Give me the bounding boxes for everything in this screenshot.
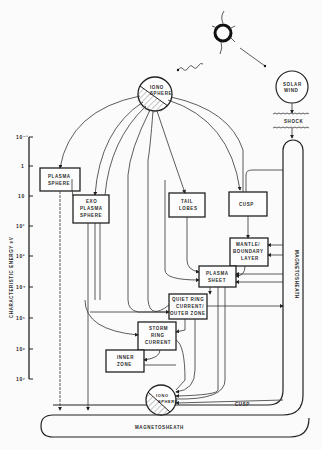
svg-text:SPHERE: SPHERE	[80, 213, 102, 218]
svg-text:TAIL: TAIL	[181, 199, 193, 204]
axis-label: CHARACTERISTIC ENERGY eV	[9, 237, 14, 318]
svg-text:EXO: EXO	[86, 199, 97, 204]
tail-lobes-node: TAIL LOBES	[169, 193, 205, 217]
mantle-boundary-layer-node: MANTLE/ BOUNDARY LAYER	[230, 238, 268, 266]
svg-text:IONO: IONO	[156, 393, 169, 398]
svg-text:LAYER: LAYER	[241, 256, 259, 261]
energy-axis: 10⁻¹ 1 10 10² 10³ 10⁴ 10⁵ 10⁶ 10⁷ CHARAC…	[9, 134, 33, 382]
svg-text:BOUNDARY: BOUNDARY	[233, 249, 264, 254]
svg-text:SPHERE: SPHERE	[158, 399, 178, 404]
plasmasphere-node: PLASMA SPHERE	[40, 168, 80, 191]
cusp-path-label: CUSP	[235, 402, 250, 407]
tick-label: 10⁴	[16, 284, 26, 290]
svg-text:MANTLE/: MANTLE/	[236, 242, 260, 247]
tick-label: 10⁵	[16, 315, 26, 321]
solar-wind-node: SOLAR WIND	[276, 71, 308, 103]
svg-text:CURRENT: CURRENT	[145, 340, 171, 345]
magnetosheath-channel: MAGNETOSHEATH MAGNETOSHEATH	[41, 140, 309, 437]
shock-node: SHOCK	[273, 113, 309, 128]
cusp-node: CUSP	[229, 192, 267, 216]
tick-label: 10⁻¹	[16, 134, 29, 140]
svg-text:SHOCK: SHOCK	[284, 119, 303, 124]
quiet-ring-current-node: QUIET RING CURRENT/ OUTER ZONE	[169, 294, 207, 319]
svg-text:CUSP: CUSP	[239, 202, 254, 207]
plasma-sheet-node: PLASMA SHEET	[199, 266, 236, 287]
storm-ring-current-node: STORM RING CURRENT	[138, 322, 176, 350]
svg-text:SPHERE: SPHERE	[48, 181, 70, 186]
magnetosphere-diagram: 10⁻¹ 1 10 10² 10³ 10⁴ 10⁵ 10⁶ 10⁷ CHARAC…	[0, 0, 322, 450]
svg-text:LOBES: LOBES	[179, 206, 198, 211]
svg-text:PLASMA: PLASMA	[206, 271, 229, 276]
exo-plasmasphere-node: EXO PLASMA SPHERE	[73, 195, 109, 223]
tick-label: 10	[18, 193, 25, 199]
tick-label: 10⁷	[16, 376, 25, 382]
svg-text:INNER: INNER	[117, 355, 134, 360]
sun-icon	[177, 11, 266, 71]
svg-text:SPHERE: SPHERE	[150, 91, 172, 96]
tick-label: 10²	[16, 223, 25, 229]
svg-text:SOLAR: SOLAR	[283, 82, 302, 87]
svg-text:ZONE: ZONE	[117, 362, 132, 367]
tick-label: 10³	[16, 253, 25, 259]
svg-text:STORM: STORM	[149, 326, 168, 331]
ionosphere-top-node: IONO SPHERE	[137, 77, 172, 113]
magnetosheath-vertical-label: MAGNETOSHEATH	[294, 250, 299, 299]
svg-text:PLASMA: PLASMA	[80, 206, 103, 211]
svg-text:IONO: IONO	[150, 85, 164, 90]
svg-text:SHEET: SHEET	[208, 278, 226, 283]
magnetosheath-bottom-label: MAGNETOSHEATH	[135, 425, 184, 430]
ionosphere-bottom-node: IONO SPHERE	[145, 385, 178, 416]
svg-text:OUTER ZONE: OUTER ZONE	[170, 311, 206, 316]
svg-text:RING: RING	[151, 333, 165, 338]
svg-text:CURRENT/: CURRENT/	[176, 304, 204, 309]
inner-zone-node: INNER ZONE	[106, 350, 144, 372]
tick-label: 1	[21, 163, 24, 169]
svg-text:WIND: WIND	[284, 88, 299, 93]
svg-text:PLASMA: PLASMA	[48, 174, 71, 179]
tick-label: 10⁶	[16, 346, 26, 352]
svg-text:QUIET RING: QUIET RING	[172, 297, 204, 302]
